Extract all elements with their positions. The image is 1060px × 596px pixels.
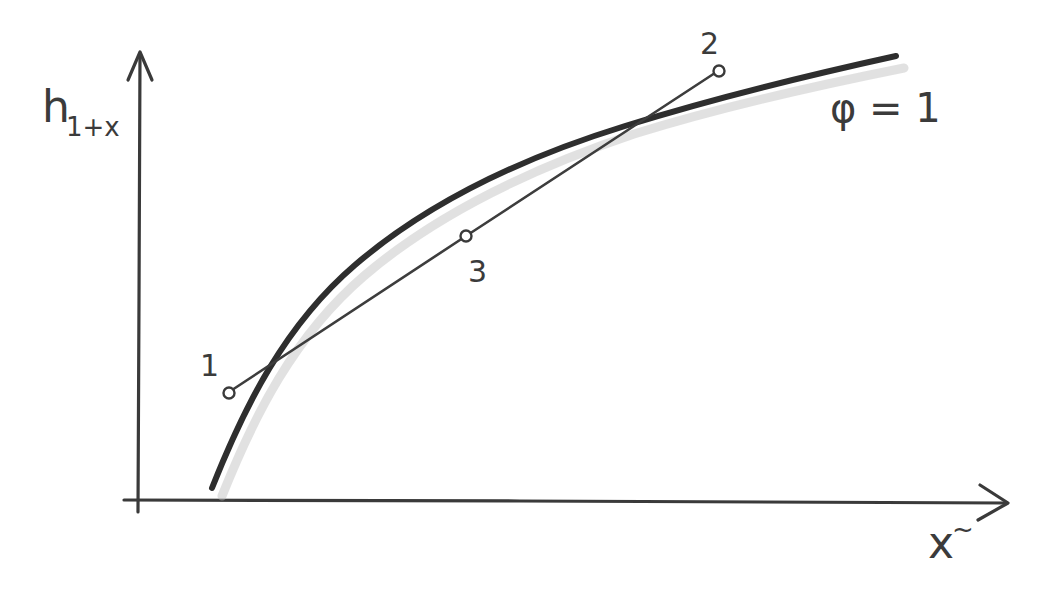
- x-axis-label-superscript: ~: [952, 514, 974, 544]
- point-3-marker: [461, 231, 472, 242]
- mixing-line: [229, 71, 718, 392]
- point-2-marker: [714, 66, 725, 77]
- y-axis: [128, 52, 152, 512]
- x-axis-label: x: [928, 517, 954, 568]
- point-1-label: 1: [200, 348, 219, 383]
- point-2-label: 2: [700, 26, 719, 61]
- saturation-curve: [212, 56, 904, 496]
- point-1-marker: [224, 388, 235, 399]
- x-axis: [124, 485, 1008, 520]
- y-axis-label-subscript: 1+x: [66, 112, 120, 142]
- curve-label-phi: φ = 1: [830, 85, 941, 131]
- h-x-diagram: 1 2 3 h 1+x x ~ φ = 1: [0, 0, 1060, 596]
- point-3-label: 3: [468, 254, 487, 289]
